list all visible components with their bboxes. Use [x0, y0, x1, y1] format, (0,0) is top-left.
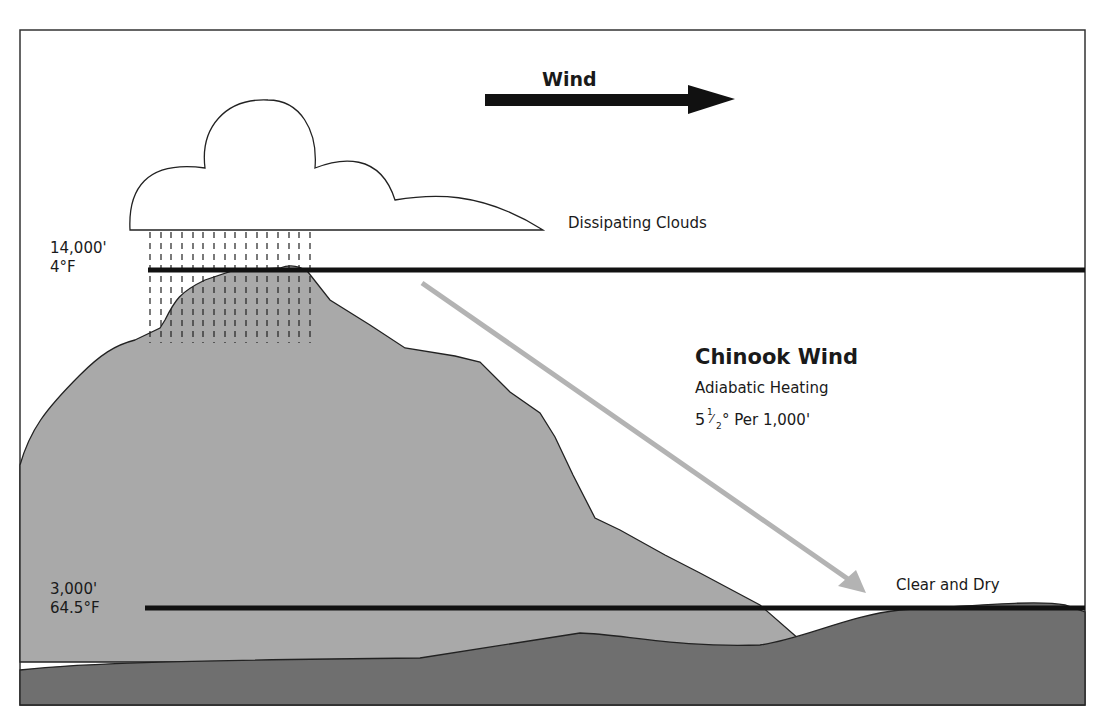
altitude-label-high: 14,000' [50, 239, 107, 257]
svg-text:5: 5 [695, 410, 705, 429]
result-label: Clear and Dry [896, 576, 1000, 594]
altitude-label-low: 3,000' [50, 580, 97, 598]
svg-text:2: 2 [716, 421, 722, 431]
chinook-diagram: Wind Dissipating Clouds 14,000' 4°F 3,00… [0, 0, 1108, 724]
cloud-label: Dissipating Clouds [568, 214, 707, 232]
title: Chinook Wind [695, 345, 858, 369]
subtitle: Adiabatic Heating [695, 379, 828, 397]
temperature-label-high: 4°F [50, 258, 76, 276]
wind-label: Wind [542, 68, 597, 90]
temperature-label-low: 64.5°F [50, 599, 100, 617]
svg-text:° Per 1,000': ° Per 1,000' [722, 411, 810, 429]
